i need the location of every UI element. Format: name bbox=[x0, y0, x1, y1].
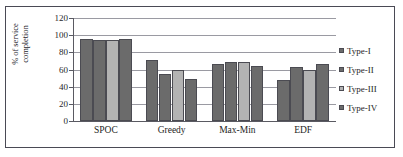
bar[interactable] bbox=[225, 62, 238, 121]
y-axis-tick-mark bbox=[69, 52, 73, 53]
plot-area: 020406080100120 SPOCGreedyMax-MinEDF bbox=[73, 18, 336, 122]
bar[interactable] bbox=[172, 70, 185, 121]
chart-figure-frame: % of service completion 020406080100120 … bbox=[5, 6, 395, 148]
bar[interactable] bbox=[146, 60, 159, 121]
x-axis-category-label: EDF bbox=[270, 125, 336, 135]
bar-group bbox=[277, 18, 329, 121]
bar-chart: % of service completion 020406080100120 … bbox=[6, 7, 394, 147]
x-axis-category-label: Greedy bbox=[139, 125, 205, 135]
bar[interactable] bbox=[277, 80, 290, 121]
legend-swatch-icon bbox=[339, 48, 344, 53]
legend-item-label: Type-I bbox=[347, 46, 371, 56]
legend-swatch-icon bbox=[339, 67, 344, 72]
bar[interactable] bbox=[303, 70, 316, 121]
legend-item[interactable]: Type-I bbox=[339, 41, 399, 60]
y-axis-tick-mark bbox=[69, 70, 73, 71]
bar[interactable] bbox=[106, 40, 119, 121]
y-axis-tick-mark bbox=[69, 121, 73, 122]
legend-item-label: Type-II bbox=[347, 65, 374, 75]
x-axis-category-label: SPOC bbox=[73, 125, 139, 135]
legend-item-label: Type-III bbox=[347, 84, 377, 94]
bar[interactable] bbox=[185, 79, 198, 121]
legend-item[interactable]: Type-II bbox=[339, 60, 399, 79]
bar[interactable] bbox=[212, 64, 225, 121]
y-axis-label-line-2: completion bbox=[21, 2, 31, 86]
chart-legend: Type-IType-IIType-IIIType-IV bbox=[339, 41, 399, 117]
y-axis-tick-label: 40 bbox=[59, 82, 68, 92]
y-axis-tick-label: 20 bbox=[59, 99, 68, 109]
y-axis-tick-label: 0 bbox=[64, 116, 69, 126]
legend-item-label: Type-IV bbox=[347, 103, 377, 113]
legend-item[interactable]: Type-IV bbox=[339, 98, 399, 117]
bar-group bbox=[212, 18, 264, 121]
y-axis-tick-mark bbox=[69, 35, 73, 36]
y-axis-tick-label: 60 bbox=[59, 65, 68, 75]
y-axis-tick-mark bbox=[69, 104, 73, 105]
y-axis-tick-mark bbox=[69, 87, 73, 88]
y-axis-tick-label: 100 bbox=[55, 30, 69, 40]
bar[interactable] bbox=[251, 66, 264, 121]
x-axis-category-label: Max-Min bbox=[205, 125, 271, 135]
bar-group bbox=[146, 18, 198, 121]
legend-swatch-icon bbox=[339, 105, 344, 110]
legend-item[interactable]: Type-III bbox=[339, 79, 399, 98]
bar[interactable] bbox=[159, 74, 172, 121]
bar[interactable] bbox=[119, 39, 132, 121]
bar[interactable] bbox=[290, 67, 303, 121]
legend-swatch-icon bbox=[339, 86, 344, 91]
x-axis-line bbox=[73, 121, 336, 122]
bar[interactable] bbox=[93, 40, 106, 121]
y-axis-tick-label: 120 bbox=[55, 13, 69, 23]
y-axis-tick-label: 80 bbox=[59, 47, 68, 57]
bar[interactable] bbox=[80, 39, 93, 121]
bar[interactable] bbox=[238, 62, 251, 121]
bar-group bbox=[80, 18, 132, 121]
y-axis-tick-mark bbox=[69, 18, 73, 19]
bar[interactable] bbox=[316, 64, 329, 122]
y-axis-label: % of service completion bbox=[11, 2, 33, 86]
